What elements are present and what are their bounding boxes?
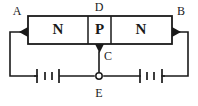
battery-left [35,69,59,83]
terminal-label-c: C [104,49,112,63]
terminal-label-a: A [13,4,22,18]
circuit-schematic-canvas: N P N [0,0,198,106]
terminal-label-e: E [95,86,102,100]
terminal-node-e-circle [96,73,102,79]
terminal-label-d: D [95,0,104,14]
arrow-down-icon [95,44,104,53]
terminal-label-b: B [177,4,185,18]
region-label-left-n: N [53,21,64,37]
arrow-left-icon [19,27,28,37]
circuit-diagram: N P N [0,0,198,106]
battery-right [140,69,164,83]
arrow-right-icon [172,27,181,37]
region-label-right-n: N [136,21,147,37]
semiconductor-bar: N P N [28,16,172,44]
region-label-middle-p: P [95,21,104,37]
